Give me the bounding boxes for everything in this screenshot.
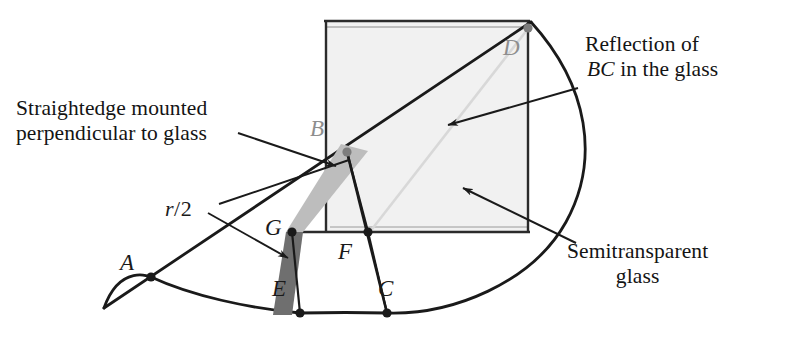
caption-reflection-math: BC <box>587 57 615 81</box>
point-dot-A <box>146 272 155 281</box>
point-dot-D <box>523 23 532 32</box>
optics-geometry-figure: Straightedge mounted perpendicular to gl… <box>0 0 812 337</box>
caption-semiglass-line1: Semitransparent <box>567 239 708 263</box>
label-r-slash: / <box>174 196 181 221</box>
point-dot-B <box>342 147 351 156</box>
caption-semitransparent-glass: Semitransparent glass <box>567 239 708 289</box>
point-label-G: G <box>265 216 282 239</box>
caption-straightedge-line1: Straightedge mounted <box>16 96 207 120</box>
point-dot-F <box>363 227 372 236</box>
point-dot-E <box>295 308 304 317</box>
point-label-F: F <box>338 240 352 263</box>
caption-straightedge: Straightedge mounted perpendicular to gl… <box>16 96 207 146</box>
caption-reflection-line1: Reflection of <box>585 32 699 56</box>
point-dot-G <box>287 227 296 236</box>
point-label-D: D <box>503 36 520 59</box>
point-label-A: A <box>120 251 134 274</box>
point-label-E: E <box>272 277 286 300</box>
caption-reflection-rest: in the glass <box>615 57 718 81</box>
caption-semiglass-line2: glass <box>567 264 708 289</box>
label-r-over-2: r/2 <box>165 198 192 220</box>
caption-reflection-line2: BC in the glass <box>587 57 718 82</box>
point-label-B: B <box>310 117 324 140</box>
caption-straightedge-line2: perpendicular to glass <box>16 121 207 145</box>
point-label-C: C <box>378 277 393 300</box>
label-r-number: 2 <box>181 196 192 221</box>
glass-fill <box>326 22 528 232</box>
label-r-variable: r <box>165 196 174 221</box>
caption-reflection: Reflection of BC in the glass <box>585 32 718 82</box>
point-dot-C <box>382 308 391 317</box>
